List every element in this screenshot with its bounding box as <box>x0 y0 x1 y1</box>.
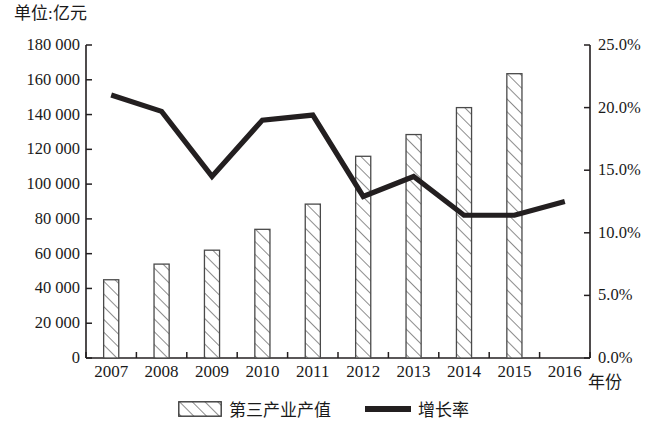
hatched-bar-swatch-icon <box>178 401 222 417</box>
x-axis-tick-label-2013: 2013 <box>397 362 431 382</box>
growth-rate-line <box>111 95 565 215</box>
bar-2010 <box>255 229 270 358</box>
bar-2007 <box>104 280 119 358</box>
x-axis-tick-label-2009: 2009 <box>195 362 229 382</box>
x-axis-tick-label-2016: 2016 <box>548 362 582 382</box>
bar-2013 <box>406 135 421 358</box>
x-axis-tick-label-2008: 2008 <box>145 362 179 382</box>
bar-2008 <box>154 264 169 358</box>
bar-2014 <box>456 108 471 358</box>
chart-container: 单位:亿元 180 000160 000140 000120 000100 00… <box>0 0 646 427</box>
bar-2011 <box>305 204 320 358</box>
solid-line-swatch-icon <box>365 406 411 412</box>
bar-2009 <box>204 250 219 358</box>
x-axis-tick-label-2012: 2012 <box>346 362 380 382</box>
legend-item-line: 增长率 <box>365 396 469 421</box>
legend-label-bar: 第三产业产值 <box>229 396 331 421</box>
legend-label-line: 增长率 <box>418 396 469 421</box>
line-series <box>111 95 565 215</box>
x-axis-label: 年份 <box>588 368 622 393</box>
x-axis-tick-label-2015: 2015 <box>497 362 531 382</box>
x-axis-tick-label-2011: 2011 <box>296 362 329 382</box>
chart-legend: 第三产业产值 增长率 <box>0 396 646 421</box>
x-axis-tick-label-2007: 2007 <box>94 362 128 382</box>
x-axis-tick-label-2014: 2014 <box>447 362 481 382</box>
legend-item-bar: 第三产业产值 <box>178 396 331 421</box>
x-axis-tick-label-2010: 2010 <box>245 362 279 382</box>
